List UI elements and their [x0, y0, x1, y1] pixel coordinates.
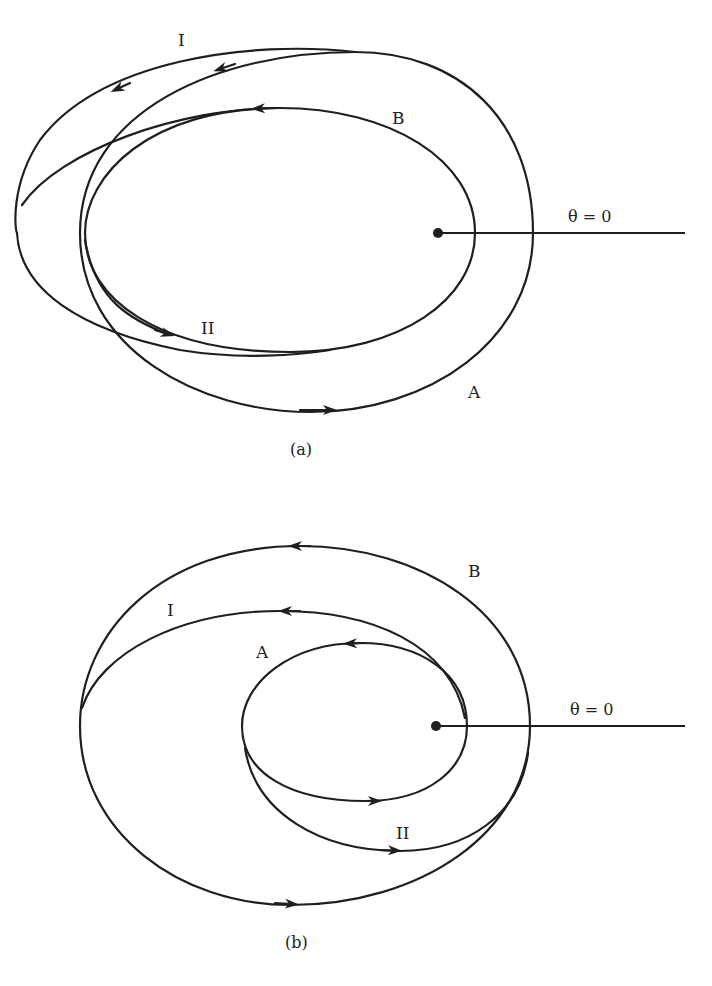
orbit-B-left-branch: [22, 108, 280, 205]
axis-label-theta: θ = 0: [568, 207, 611, 226]
label-A: A: [255, 642, 269, 662]
orbit-A-arrow-top: [350, 643, 365, 644]
label-B: B: [468, 561, 481, 581]
transfer-orbit-II-arrow: [380, 850, 395, 851]
transfer-orbit-II: [17, 233, 330, 356]
figure-b-canvas: I A B II θ = 0 (b): [0, 493, 712, 986]
label-II: II: [201, 318, 214, 338]
transfer-orbit-I-arrow: [117, 83, 130, 89]
label-A: A: [467, 382, 481, 402]
figure-caption-b: (b): [285, 933, 308, 952]
axis-label-theta: θ = 0: [570, 700, 613, 719]
label-I: I: [178, 30, 185, 50]
figure-a-canvas: I B II A θ = 0 (a): [0, 0, 712, 493]
focus-dot: [433, 228, 443, 238]
orbit-B: [85, 108, 475, 352]
focus-dot: [431, 721, 441, 731]
transfer-orbit-II-lower: [85, 240, 170, 335]
figure-b: I A B II θ = 0 (b): [0, 493, 712, 986]
figure-caption-a: (a): [290, 440, 312, 459]
transfer-orbit-I: [82, 611, 465, 718]
label-I: I: [167, 600, 174, 620]
label-II: II: [396, 823, 409, 843]
figure-a: I B II A θ = 0 (a): [0, 0, 712, 493]
transfer-orbit-I: [15, 49, 355, 233]
orbit-B-arrow-bottom: [275, 903, 292, 904]
label-B: B: [392, 108, 405, 128]
